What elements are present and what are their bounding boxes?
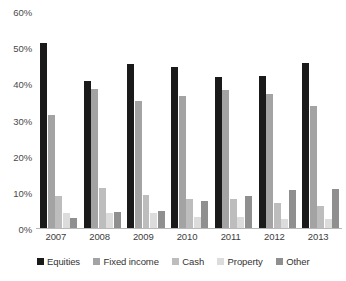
bar — [259, 76, 266, 229]
y-axis: 0%10%20%30%40%50%60% — [0, 12, 34, 229]
y-axis-tick-label: 40% — [13, 79, 32, 90]
y-axis-tick-label: 50% — [13, 43, 32, 54]
y-axis-tick-label: 20% — [13, 151, 32, 162]
bar — [186, 199, 193, 229]
legend-label: Equities — [47, 256, 80, 267]
bar-group — [84, 12, 122, 229]
x-axis-tick-label: 2007 — [45, 231, 66, 242]
bar — [230, 199, 237, 229]
bar-group — [215, 12, 253, 229]
bar-group — [259, 12, 297, 229]
x-axis-tick-label: 2010 — [177, 231, 198, 242]
bar — [222, 90, 229, 229]
bar — [99, 188, 106, 229]
bar — [201, 201, 208, 229]
x-axis: 2007200820092010201120122013 — [36, 231, 342, 247]
bar — [245, 196, 252, 229]
bar — [48, 115, 55, 229]
bar — [215, 77, 222, 229]
bar-group — [40, 12, 78, 229]
bar-group — [127, 12, 165, 229]
bar — [171, 67, 178, 229]
y-axis-tick-label: 0% — [18, 224, 32, 235]
bar — [91, 89, 98, 229]
bar — [106, 213, 113, 229]
bar-group — [302, 12, 340, 229]
x-axis-line — [36, 228, 342, 229]
bar-chart: 0%10%20%30%40%50%60% 2007200820092010201… — [0, 0, 346, 281]
legend-swatch-icon — [172, 258, 179, 265]
x-axis-tick-label: 2009 — [133, 231, 154, 242]
legend-swatch-icon — [276, 258, 283, 265]
bar — [317, 206, 324, 230]
bar-group — [171, 12, 209, 229]
y-axis-tick-label: 10% — [13, 187, 32, 198]
legend-label: Cash — [182, 256, 204, 267]
legend-item-equities[interactable]: Equities — [37, 256, 81, 267]
bar — [274, 203, 281, 229]
bar — [55, 196, 62, 229]
legend-swatch-icon — [93, 258, 100, 265]
bar — [310, 106, 317, 229]
plot-area — [36, 12, 342, 229]
legend-swatch-icon — [217, 258, 224, 265]
legend-swatch-icon — [37, 258, 44, 265]
bar — [135, 101, 142, 229]
bar — [302, 63, 309, 229]
bar — [84, 81, 91, 229]
bar — [63, 213, 70, 229]
bar — [114, 212, 121, 229]
bar — [40, 43, 47, 229]
chart-legend: EquitiesFixed incomeCashPropertyOther — [0, 256, 346, 267]
x-axis-tick-label: 2013 — [308, 231, 329, 242]
x-axis-tick-label: 2011 — [221, 231, 241, 242]
y-axis-tick-label: 30% — [13, 115, 32, 126]
bar — [143, 195, 150, 229]
bar — [266, 94, 273, 229]
legend-item-other[interactable]: Other — [276, 256, 310, 267]
bar — [158, 211, 165, 229]
bar — [127, 64, 134, 229]
legend-item-cash[interactable]: Cash — [172, 256, 204, 267]
bar — [179, 96, 186, 229]
legend-item-fixed-income[interactable]: Fixed income — [93, 256, 159, 267]
x-axis-tick-label: 2008 — [89, 231, 110, 242]
legend-item-property[interactable]: Property — [217, 256, 263, 267]
x-axis-tick-label: 2012 — [264, 231, 285, 242]
legend-label: Property — [228, 256, 263, 267]
bar — [289, 190, 296, 229]
legend-label: Other — [286, 256, 309, 267]
bar — [150, 213, 157, 229]
y-axis-tick-label: 60% — [13, 7, 32, 18]
legend-label: Fixed income — [104, 256, 159, 267]
bar — [332, 189, 339, 229]
